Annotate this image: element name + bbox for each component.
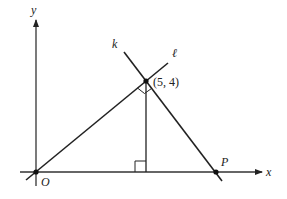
- y-axis-label: y: [30, 3, 37, 17]
- intersection-label: (5, 4): [153, 75, 179, 89]
- point-p: [213, 169, 218, 174]
- point-intersection: [143, 78, 148, 83]
- x-axis-label: x: [265, 165, 272, 179]
- right-angle-mark-intersection: [138, 88, 152, 94]
- point-origin: [33, 169, 38, 174]
- point-p-label: P: [220, 155, 229, 169]
- geometry-diagram: y x O k ℓ (5, 4) P: [0, 0, 287, 199]
- origin-label: O: [41, 175, 50, 189]
- line-l-label: ℓ: [172, 46, 177, 60]
- right-angle-mark-foot: [135, 161, 146, 172]
- line-k-label: k: [112, 37, 118, 51]
- line-k: [124, 52, 222, 181]
